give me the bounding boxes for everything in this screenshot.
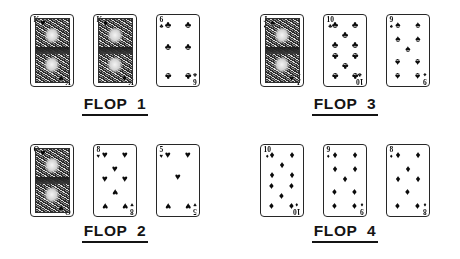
- card-rank: 9: [360, 208, 364, 214]
- spade-icon: ♠: [395, 71, 400, 81]
- spade-icon: ♠: [415, 20, 420, 30]
- club-icon: ♣: [332, 71, 339, 81]
- heart-icon: ♥: [58, 73, 64, 83]
- club-icon: ♣: [165, 71, 172, 81]
- club-icon: ♣: [352, 71, 359, 81]
- heart-icon: ♥: [58, 203, 64, 213]
- spade-icon: ♠: [395, 34, 400, 44]
- spade-icon: ♠: [395, 57, 400, 67]
- heart-icon: ♥: [122, 201, 128, 211]
- diamond-icon: ♦: [279, 160, 284, 170]
- diamond-icon: ♦: [269, 201, 274, 211]
- heart-icon: ♥: [122, 150, 128, 160]
- playing-card-10-of-diamonds: 10♦10♦♦♦♦♦♦♦♦♦♦♦: [260, 144, 304, 217]
- club-icon: ♣: [165, 42, 172, 52]
- heart-icon: ♥: [102, 150, 108, 160]
- diamond-icon: ♦: [269, 150, 274, 160]
- playing-card-k-of-diamonds: K♦K♦♦♦: [93, 14, 137, 87]
- spade-icon: ♠: [270, 18, 275, 28]
- club-icon: ♣: [185, 71, 192, 81]
- club-icon: ♣: [352, 40, 359, 50]
- diamond-icon: ♦: [423, 203, 426, 208]
- card-rank: 9: [423, 78, 427, 84]
- club-icon: ♣: [352, 51, 359, 61]
- diamond-icon: ♦: [405, 187, 410, 197]
- flop-2-cards: Q♥Q♥♥♥8♥8♥♥♥♥♥♥♥♥♥5♥5♥♥♥♥♥♥: [30, 144, 200, 217]
- club-icon: ♣: [332, 20, 339, 30]
- spade-icon: ♠: [415, 71, 420, 81]
- diamond-icon: ♦: [289, 201, 294, 211]
- card-index-bottom-right: 8♥: [130, 203, 134, 214]
- diamond-icon: ♦: [352, 187, 357, 197]
- flop-3-cards: J♠J♠♠♠10♣10♣♣♣♣♣♣♣♣♣♣♣9♠9♠♠♠♠♠♠♠♠♠♠: [260, 14, 430, 87]
- heart-icon: ♥: [112, 164, 118, 174]
- diamond-icon: ♦: [415, 201, 420, 211]
- playing-card-6-of-clubs: 6♣6♣♣♣♣♣♣♣: [156, 14, 200, 87]
- diamond-icon: ♦: [360, 203, 363, 208]
- diamond-icon: ♦: [405, 164, 410, 174]
- diamond-icon: ♦: [332, 150, 337, 160]
- card-pip-grid: ♥♥♥♥♥♥♥♥: [100, 150, 130, 211]
- flop-1: K♥K♥♥♥K♦K♦♦♦6♣6♣♣♣♣♣♣♣FLOP 1: [0, 0, 230, 130]
- playing-card-10-of-clubs: 10♣10♣♣♣♣♣♣♣♣♣♣♣: [323, 14, 367, 87]
- heart-icon: ♥: [193, 203, 197, 208]
- heart-icon: ♥: [185, 150, 191, 160]
- playing-card-5-of-hearts: 5♥5♥♥♥♥♥♥: [156, 144, 200, 217]
- club-icon: ♣: [193, 73, 197, 78]
- club-icon: ♣: [332, 51, 339, 61]
- flop-3: J♠J♠♠♠10♣10♣♣♣♣♣♣♣♣♣♣♣9♠9♠♠♠♠♠♠♠♠♠♠FLOP …: [230, 0, 460, 130]
- club-icon: ♣: [342, 61, 349, 71]
- club-icon: ♣: [342, 30, 349, 40]
- card-pip-grid: ♦♦♦♦♦♦♦♦♦: [330, 150, 360, 211]
- playing-card-q-of-hearts: Q♥Q♥♥♥: [30, 144, 74, 217]
- diamond-icon: ♦: [352, 164, 357, 174]
- card-pip-grid: ♣♣♣♣♣♣♣♣♣♣: [330, 20, 360, 81]
- heart-icon: ♥: [112, 187, 118, 197]
- club-icon: ♣: [165, 20, 172, 30]
- card-index-bottom-right: 6♣: [193, 73, 197, 84]
- heart-icon: ♥: [122, 174, 128, 184]
- court-card-band: [36, 47, 69, 55]
- diamond-icon: ♦: [332, 164, 337, 174]
- heart-icon: ♥: [102, 201, 108, 211]
- playing-card-j-of-spades: J♠J♠♠♠: [260, 14, 304, 87]
- card-index-bottom-right: 9♦: [360, 203, 364, 214]
- heart-icon: ♥: [165, 201, 171, 211]
- club-icon: ♣: [185, 42, 192, 52]
- spade-icon: ♠: [423, 73, 426, 78]
- flop-4: 10♦10♦♦♦♦♦♦♦♦♦♦♦9♦9♦♦♦♦♦♦♦♦♦♦8♦8♦♦♦♦♦♦♦♦…: [230, 130, 460, 259]
- card-pip-grid: ♣♣♣♣♣♣: [163, 20, 193, 81]
- playing-card-8-of-hearts: 8♥8♥♥♥♥♥♥♥♥♥: [93, 144, 137, 217]
- playing-card-k-of-hearts: K♥K♥♥♥: [30, 14, 74, 87]
- card-index-bottom-right: 9♠: [423, 73, 427, 84]
- diamond-icon: ♦: [279, 191, 284, 201]
- heart-icon: ♥: [175, 172, 181, 182]
- flop-3-label: FLOP 3: [312, 95, 378, 116]
- playing-card-9-of-spades: 9♠9♠♠♠♠♠♠♠♠♠♠: [386, 14, 430, 87]
- club-icon: ♣: [332, 40, 339, 50]
- heart-icon: ♥: [185, 201, 191, 211]
- heart-icon: ♥: [40, 18, 46, 28]
- diamond-icon: ♦: [103, 18, 108, 28]
- heart-icon: ♥: [165, 150, 171, 160]
- card-index-bottom-right: 5♥: [193, 203, 197, 214]
- diamond-icon: ♦: [352, 150, 357, 160]
- diamond-icon: ♦: [332, 201, 337, 211]
- diamond-icon: ♦: [415, 174, 420, 184]
- diamond-icon: ♦: [342, 174, 347, 184]
- diamond-icon: ♦: [269, 181, 274, 191]
- flop-4-label: FLOP 4: [312, 222, 378, 243]
- spade-icon: ♠: [395, 20, 400, 30]
- card-pip-grid: ♦♦♦♦♦♦♦♦: [393, 150, 423, 211]
- diamond-icon: ♦: [395, 150, 400, 160]
- flop-2-label: FLOP 2: [82, 222, 148, 243]
- card-pip-grid: ♠♠♠♠♠♠♠♠♠: [393, 20, 423, 81]
- card-rank: 6: [193, 78, 197, 84]
- court-card-band: [99, 47, 132, 55]
- court-card-band: [36, 177, 69, 185]
- card-rank: 5: [193, 208, 197, 214]
- heart-icon: ♥: [40, 148, 46, 158]
- flop-4-cards: 10♦10♦♦♦♦♦♦♦♦♦♦♦9♦9♦♦♦♦♦♦♦♦♦♦8♦8♦♦♦♦♦♦♦♦…: [260, 144, 430, 217]
- diamond-icon: ♦: [122, 73, 127, 83]
- card-pip-grid: ♥♥♥♥♥: [163, 150, 193, 211]
